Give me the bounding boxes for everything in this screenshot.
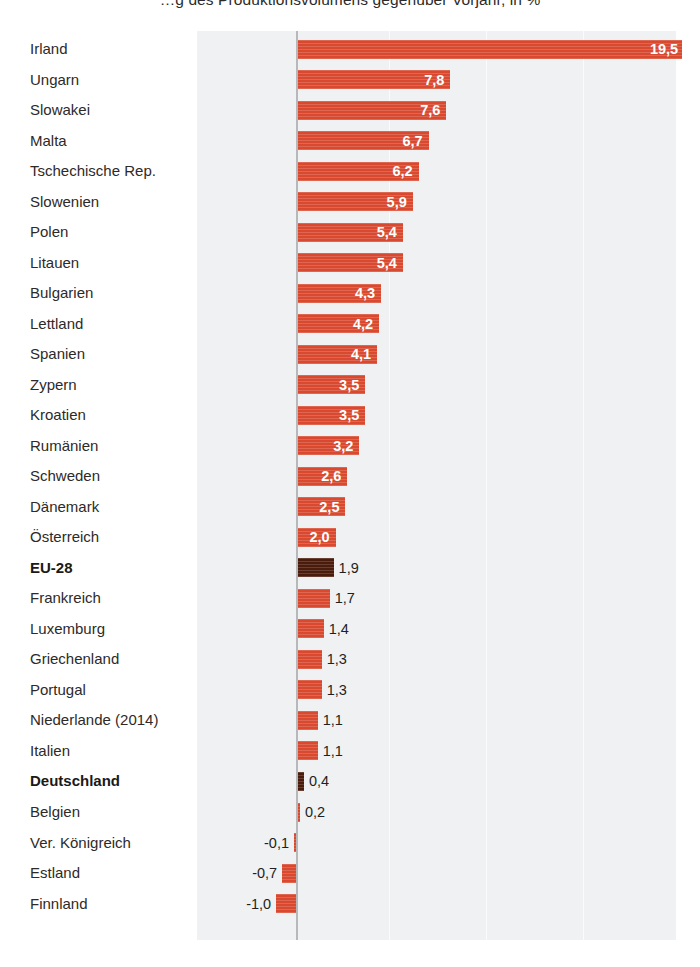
bar-value-label: 1,1 — [323, 705, 343, 736]
bar-row: Polen5,4 — [0, 217, 700, 248]
category-label: Schweden — [30, 461, 100, 492]
bar-value-label: 4,2 — [347, 309, 373, 340]
category-label: Slowakei — [30, 95, 90, 126]
bar-value-label: 6,7 — [397, 126, 423, 157]
category-label: Ungarn — [30, 65, 79, 96]
bar-value-label: 3,5 — [333, 370, 359, 401]
category-label: Estland — [30, 858, 80, 889]
bar-row: Spanien4,1 — [0, 339, 700, 370]
bar-row: Ungarn7,8 — [0, 65, 700, 96]
bar — [296, 558, 334, 577]
bar-value-label: 19,5 — [650, 34, 676, 65]
bar-row: EU-281,9 — [0, 553, 700, 584]
category-label: Slowenien — [30, 187, 99, 218]
bar-row: Estland-0,7 — [0, 858, 700, 889]
bar-value-label: 2,0 — [304, 522, 330, 553]
bar-value-label: 4,3 — [349, 278, 375, 309]
bar — [282, 864, 296, 883]
category-label: Ver. Königreich — [30, 828, 131, 859]
bar-value-label: 5,4 — [371, 217, 397, 248]
bar-row: Frankreich1,7 — [0, 583, 700, 614]
bar-value-label: 6,2 — [387, 156, 413, 187]
category-label: Portugal — [30, 675, 86, 706]
bar-value-label: 7,8 — [418, 65, 444, 96]
bar-row: Dänemark2,5 — [0, 492, 700, 523]
bar-row: Irland19,5 — [0, 34, 700, 65]
bar-row: Deutschland0,4 — [0, 766, 700, 797]
bar-value-label: 7,6 — [414, 95, 440, 126]
bar-row: Slowakei7,6 — [0, 95, 700, 126]
bar-value-label: 5,9 — [381, 187, 407, 218]
bar-value-label: 1,1 — [323, 736, 343, 767]
bar-row: Lettland4,2 — [0, 309, 700, 340]
bar — [276, 894, 296, 913]
bar-row: Bulgarien4,3 — [0, 278, 700, 309]
bar-row: Österreich2,0 — [0, 522, 700, 553]
bar-row: Kroatien3,5 — [0, 400, 700, 431]
bar — [296, 589, 330, 608]
bar-value-label: -0,7 — [240, 858, 277, 889]
bar-value-label: 3,2 — [327, 431, 353, 462]
bar-row: Luxemburg1,4 — [0, 614, 700, 645]
category-label: Italien — [30, 736, 70, 767]
category-label: Griechenland — [30, 644, 119, 675]
bar-value-label: 2,5 — [313, 492, 339, 523]
bar-row: Portugal1,3 — [0, 675, 700, 706]
bar-value-label: 1,3 — [327, 644, 347, 675]
bar-value-label: 1,9 — [339, 553, 359, 584]
category-label: Bulgarien — [30, 278, 93, 309]
bar-value-label: 1,7 — [335, 583, 355, 614]
category-label: Litauen — [30, 248, 79, 279]
bar — [296, 741, 318, 760]
bar-row: Belgien0,2 — [0, 797, 700, 828]
category-label: EU-28 — [30, 553, 73, 584]
category-label: Frankreich — [30, 583, 101, 614]
category-label: Dänemark — [30, 492, 99, 523]
category-label: Rumänien — [30, 431, 98, 462]
bar-value-label: 0,4 — [309, 766, 329, 797]
category-label: Spanien — [30, 339, 85, 370]
bar — [296, 680, 322, 699]
category-label: Lettland — [30, 309, 83, 340]
bar-row: Niederlande (2014)1,1 — [0, 705, 700, 736]
category-label: Zypern — [30, 370, 77, 401]
bar — [296, 40, 682, 59]
category-label: Irland — [30, 34, 68, 65]
category-label: Tschechische Rep. — [30, 156, 156, 187]
bar-row: Rumänien3,2 — [0, 431, 700, 462]
category-label: Österreich — [30, 522, 99, 553]
category-label: Niederlande (2014) — [30, 705, 158, 736]
bar-value-label: 2,6 — [315, 461, 341, 492]
bar-value-label: -1,0 — [234, 889, 271, 920]
category-label: Luxemburg — [30, 614, 105, 645]
bar-row: Slowenien5,9 — [0, 187, 700, 218]
category-label: Deutschland — [30, 766, 120, 797]
zero-axis-line — [296, 31, 298, 940]
bar-row: Finnland-1,0 — [0, 889, 700, 920]
category-label: Finnland — [30, 889, 88, 920]
bar — [296, 650, 322, 669]
bar-row: Malta6,7 — [0, 126, 700, 157]
bar-row: Griechenland1,3 — [0, 644, 700, 675]
bar-value-label: 5,4 — [371, 248, 397, 279]
bar-row: Italien1,1 — [0, 736, 700, 767]
bar-value-label: 3,5 — [333, 400, 359, 431]
bar — [296, 711, 318, 730]
bar-value-label: 1,3 — [327, 675, 347, 706]
category-label: Kroatien — [30, 400, 86, 431]
category-label: Polen — [30, 217, 68, 248]
bar-row: Ver. Königreich-0,1 — [0, 828, 700, 859]
category-label: Belgien — [30, 797, 80, 828]
bar-value-label: -0,1 — [252, 828, 289, 859]
bar-row: Zypern3,5 — [0, 370, 700, 401]
bar-value-label: 4,1 — [345, 339, 371, 370]
bar-chart: Irland19,5Ungarn7,8Slowakei7,6Malta6,7Ts… — [0, 0, 700, 967]
bar-value-label: 0,2 — [305, 797, 325, 828]
bar — [296, 619, 324, 638]
bar-row: Schweden2,6 — [0, 461, 700, 492]
category-label: Malta — [30, 126, 67, 157]
bar-row: Tschechische Rep.6,2 — [0, 156, 700, 187]
bar-row: Litauen5,4 — [0, 248, 700, 279]
bar-value-label: 1,4 — [329, 614, 349, 645]
